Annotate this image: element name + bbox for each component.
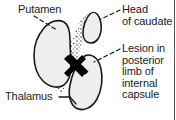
right-border-rule	[174, 0, 175, 120]
lesion-leader	[94, 49, 120, 62]
label-putamen: Putamen	[18, 4, 61, 16]
label-head-of-caudate: Head of caudate	[122, 4, 172, 27]
putamen-shape	[34, 21, 71, 87]
head-of-caudate-leader	[101, 10, 120, 19]
label-lesion-in-posterior-limb-of-internal-capsule: Lesion in posterior limb of internal cap…	[122, 43, 165, 101]
label-thalamus: Thalamus	[5, 91, 53, 103]
brain-section-figure: Putamen Head of caudate Lesion in poster…	[0, 0, 176, 120]
